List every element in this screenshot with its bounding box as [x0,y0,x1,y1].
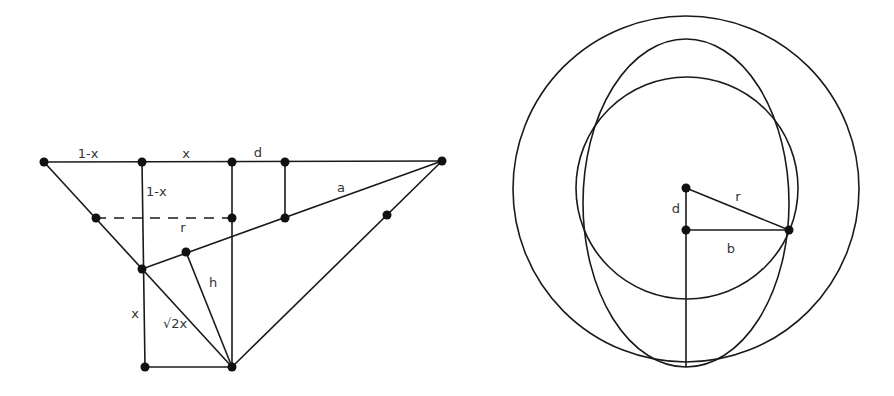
point-p13 [228,363,237,372]
label-x-vertical: x [131,306,139,321]
label-d-right: d [672,201,680,216]
label-1-minus-x-vertical: 1-x [146,184,167,199]
label-h: h [209,275,217,290]
label-b-right: b [727,241,735,256]
point-center [682,184,691,193]
label-sqrt2x: √2x [163,316,188,331]
label-a: a [337,180,345,195]
line-h [186,252,232,367]
point-p6 [92,214,101,223]
left-slant-line [44,162,232,367]
label-1-minus-x-top: 1-x [78,146,99,161]
point-b [785,226,794,235]
label-x-top: x [182,146,190,161]
vertical-line-1-minus-x [142,162,145,367]
point-p12 [141,363,150,372]
label-r-right: r [735,189,741,204]
top-line [44,161,442,162]
point-p2 [138,158,147,167]
point-p1 [40,158,49,167]
point-p4 [281,158,290,167]
geometry-figure: 1-x x d 1-x r a h x √2x d r b [0,0,894,396]
point-p11 [182,248,191,257]
point-d [682,226,691,235]
point-p9 [383,211,392,220]
label-r: r [180,220,186,235]
right-diagram: d r b [513,16,859,367]
point-p10 [138,265,147,274]
point-p7 [228,214,237,223]
point-p8 [281,214,290,223]
point-p5 [438,157,447,166]
point-p3 [228,158,237,167]
left-diagram: 1-x x d 1-x r a h x √2x [40,145,447,372]
label-d: d [254,145,262,160]
